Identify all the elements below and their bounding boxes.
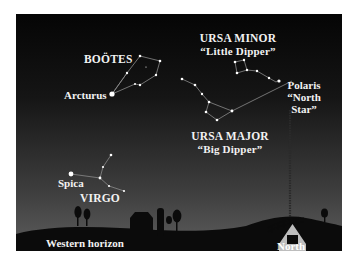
spica-label: Spica [58, 178, 84, 189]
ursa-minor-title: URSA MINOR [198, 33, 278, 45]
silo [157, 208, 164, 236]
barn-and-silo [130, 208, 164, 236]
ursa-minor-subtitle: “Little Dipper” [198, 46, 278, 57]
barn [130, 212, 153, 236]
polaris-name: Polaris [284, 80, 324, 91]
polaris-note-line2: Star” [284, 104, 324, 115]
western-horizon-label: Western horizon [46, 238, 124, 249]
virgo-label: VIRGO [80, 193, 120, 205]
bootes-label: BOÖTES [84, 54, 133, 66]
polaris-note-line1: “North [284, 92, 324, 103]
polaris-star [277, 79, 280, 82]
arcturus-label: Arcturus [64, 90, 107, 101]
ursa-major-subtitle: “Big Dipper” [190, 144, 270, 155]
night-sky-diagram: BOÖTES Arcturus URSA MINOR “Little Dippe… [16, 14, 342, 251]
north-label: North [277, 241, 305, 251]
ursa-major-title: URSA MAJOR [190, 131, 270, 143]
arcturus-star [109, 91, 114, 96]
sky-illustration [16, 14, 342, 251]
spica-star [69, 172, 74, 177]
